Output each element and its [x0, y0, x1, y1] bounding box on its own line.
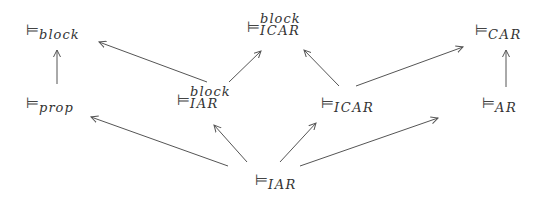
edge-iarblock-block	[99, 42, 207, 82]
node-subscript: ICAR	[334, 100, 374, 115]
node-models-prop: ⊨prop	[26, 95, 74, 111]
models-symbol: ⊨	[26, 21, 39, 39]
node-subscript: prop	[39, 100, 74, 115]
node-subscript: ICAR	[260, 25, 300, 37]
models-symbol: ⊨	[475, 21, 488, 39]
node-models-iar-block: ⊨blockIAR	[177, 88, 231, 113]
node-subscript: IAR	[268, 177, 297, 192]
node-subscript: AR	[495, 100, 517, 115]
node-models-car: ⊨CAR	[475, 22, 522, 38]
models-symbol: ⊨	[177, 91, 190, 109]
edge-iar-ar	[300, 118, 438, 166]
models-symbol: ⊨	[482, 94, 495, 112]
edge-iarblock-icarblock	[229, 51, 261, 82]
node-models-icar-block: ⊨blockICAR	[247, 15, 301, 40]
edge-iar-icar	[280, 123, 316, 162]
node-models-iar: ⊨IAR	[255, 172, 297, 188]
node-models-icar: ⊨ICAR	[321, 95, 374, 111]
models-symbol: ⊨	[26, 94, 39, 112]
models-symbol: ⊨	[247, 18, 260, 36]
models-symbol: ⊨	[255, 171, 268, 189]
edge-iar-prop	[91, 117, 228, 166]
models-symbol: ⊨	[321, 94, 334, 112]
node-models-block: ⊨block	[26, 22, 80, 38]
node-subscript: block	[39, 27, 79, 42]
edge-icar-car	[356, 47, 463, 86]
node-models-ar: ⊨AR	[482, 95, 517, 111]
edge-icar-icarblock	[304, 50, 339, 86]
node-subscript: CAR	[488, 27, 522, 42]
node-subscript: IAR	[190, 98, 230, 110]
edge-iar-iarblock	[214, 125, 247, 162]
